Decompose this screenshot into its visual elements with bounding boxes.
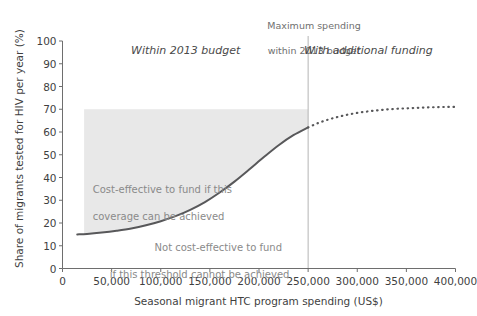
x-tick-label: 0	[59, 275, 66, 287]
region-label-additional-funding: With additional funding	[304, 45, 433, 58]
region-label-within-budget: Within 2013 budget	[131, 45, 240, 58]
callout-max-spending: Maximum spending within 2013 budget	[243, 7, 373, 71]
y-tick-label: 60	[23, 126, 57, 138]
y-axis-tick-marks	[59, 41, 63, 269]
annotation-not-cost-effective-line-2: if this threshold cannot be achieved	[110, 269, 290, 280]
y-tick-label: 70	[23, 103, 57, 115]
y-tick-label: 30	[23, 194, 57, 206]
y-tick-label: 10	[23, 240, 57, 252]
annotation-not-cost-effective: Not cost-effective to fund if this thres…	[97, 227, 282, 296]
y-tick-label: 80	[23, 80, 57, 92]
x-axis-title: Seasonal migrant HTC program spending (U…	[62, 295, 455, 307]
x-tick-label: 400,000	[434, 275, 477, 287]
x-tick-label: 300,000	[336, 275, 379, 287]
y-tick-label: 20	[23, 217, 57, 229]
y-axis-title: Share of migrants tested for HIV per yea…	[13, 38, 25, 268]
x-tick-label: 350,000	[385, 275, 428, 287]
callout-line-1: Maximum spending	[267, 20, 360, 31]
annotation-cost-effective-line-1: Cost-effective to fund if this	[93, 184, 232, 195]
annotation-cost-effective-line-2: coverage can be achieved	[93, 211, 225, 222]
series-line-additional-funding	[308, 107, 455, 127]
y-tick-label: 50	[23, 149, 57, 161]
y-tick-label: 0	[23, 262, 57, 274]
y-tick-label: 40	[23, 171, 57, 183]
y-tick-label: 100	[23, 35, 57, 47]
x-tick-label: 250,000	[286, 275, 329, 287]
y-tick-label: 90	[23, 58, 57, 70]
annotation-not-cost-effective-line-1: Not cost-effective to fund	[155, 242, 282, 253]
